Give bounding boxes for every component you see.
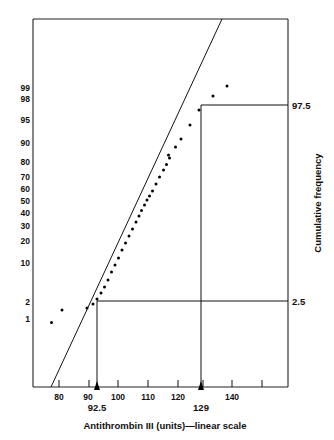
lower-reference-x-label: 92.5 (88, 402, 107, 413)
data-point (103, 286, 106, 289)
data-point (128, 235, 131, 238)
data-point (198, 109, 201, 112)
data-point (135, 221, 138, 224)
data-point (92, 303, 95, 306)
y-axis-tick-labels: 99 98 95 90 80 70 60 50 40 30 20 10 2 1 (21, 83, 31, 324)
lower-percentile-label: 2.5 (292, 296, 306, 307)
data-point (168, 157, 171, 160)
y-tick-label-99: 99 (21, 83, 31, 93)
data-point (180, 138, 183, 141)
x-axis-caption: Antithrombin III (units)—linear scale (83, 420, 246, 431)
data-point (143, 204, 146, 207)
y-tick-label-2: 2 (25, 297, 30, 307)
axis-arrow-markers (94, 381, 204, 390)
x-tick-label-140: 140 (225, 392, 239, 402)
data-point (131, 228, 134, 231)
data-point (148, 195, 151, 198)
upper-percentile-label: 97.5 (292, 100, 311, 111)
data-point (124, 242, 127, 245)
data-point (50, 321, 53, 324)
data-point (114, 264, 117, 267)
data-point (100, 292, 103, 295)
data-point (86, 307, 89, 310)
data-point (96, 298, 99, 301)
y-tick-label-20: 20 (21, 236, 31, 246)
y-tick-label-50: 50 (21, 196, 31, 206)
data-point (151, 190, 154, 193)
y-tick-label-70: 70 (21, 172, 31, 182)
data-point (167, 154, 170, 157)
data-point (61, 309, 64, 312)
data-point (174, 146, 177, 149)
data-point (146, 199, 149, 202)
x-axis-tick-labels: 80 90 100 110 120 140 (54, 392, 239, 402)
plot-frame (33, 19, 288, 387)
x-axis-ticks (59, 380, 262, 387)
data-point (189, 124, 192, 127)
y-tick-label-60: 60 (21, 184, 31, 194)
reference-lines (97, 105, 288, 387)
x-tick-label-80: 80 (54, 392, 64, 402)
data-point (155, 183, 158, 186)
x-tick-label-100: 100 (111, 392, 125, 402)
x-tick-label-120: 120 (171, 392, 185, 402)
y-axis-caption: Cumulative frequency (312, 153, 323, 253)
y-tick-label-10: 10 (21, 258, 31, 268)
probability-plot-figure: 80 90 100 110 120 140 99 98 95 90 80 70 … (0, 0, 334, 440)
data-point (140, 209, 143, 212)
data-points (50, 85, 229, 325)
arrow-marker-92-5 (94, 381, 100, 390)
fitted-normal-line (51, 19, 222, 387)
chart-svg: 80 90 100 110 120 140 99 98 95 90 80 70 … (0, 0, 334, 440)
y-tick-label-80: 80 (21, 157, 31, 167)
data-point (138, 215, 141, 218)
y-tick-label-95: 95 (21, 115, 31, 125)
upper-reference-x-label: 129 (193, 402, 209, 413)
data-point (162, 169, 165, 172)
x-tick-label-90: 90 (83, 392, 93, 402)
data-point (107, 279, 110, 282)
data-point (121, 249, 124, 252)
y-tick-label-30: 30 (21, 221, 31, 231)
data-point (110, 271, 113, 274)
data-point (117, 257, 120, 260)
data-point (165, 163, 168, 166)
y-tick-label-98: 98 (21, 94, 31, 104)
x-tick-label-110: 110 (141, 392, 155, 402)
y-tick-label-40: 40 (21, 208, 31, 218)
data-point-outlier (226, 85, 229, 88)
y-tick-label-90: 90 (21, 138, 31, 148)
y-tick-label-1: 1 (25, 314, 30, 324)
data-point (158, 176, 161, 179)
data-point-outlier (212, 95, 215, 98)
